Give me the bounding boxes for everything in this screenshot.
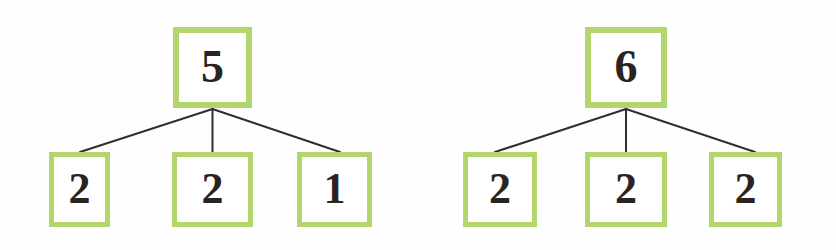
number-bond-right-part-box-2-value: 2: [615, 167, 637, 211]
number-bond-right-part-box-3: 2: [709, 152, 782, 227]
number-bond-left-part-box-2: 2: [172, 152, 253, 227]
number-bond-left-part-box-3: 1: [297, 152, 372, 227]
number-bond-left-part-box-2-value: 2: [202, 167, 224, 211]
diagram-canvas: 52216222: [0, 0, 836, 250]
number-bond-right-part-box-1-value: 2: [489, 167, 511, 211]
connector-line: [80, 109, 213, 152]
number-bond-left-whole-box: 5: [173, 27, 252, 108]
number-bond-left-part-box-1-value: 2: [69, 167, 91, 211]
number-bond-left-part-box-1: 2: [49, 152, 110, 227]
number-bond-right-part-box-2: 2: [585, 152, 667, 227]
number-bond-left-part-box-3-value: 1: [324, 167, 346, 211]
number-bond-right-part-box-3-value: 2: [735, 167, 757, 211]
number-bond-right-whole-box: 6: [585, 27, 667, 108]
number-bond-right-part-box-1: 2: [463, 152, 537, 227]
number-bond-left-whole-box-value: 5: [201, 44, 224, 90]
connector-line: [495, 109, 626, 152]
connector-line: [213, 109, 341, 152]
connector-line: [626, 109, 755, 152]
number-bond-right-whole-box-value: 6: [615, 44, 638, 90]
